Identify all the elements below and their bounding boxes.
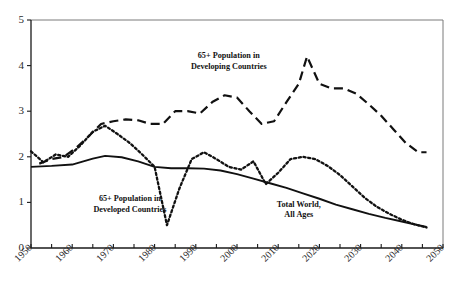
developing-countries-label: 65+ Population inDeveloping Countries: [191, 51, 267, 73]
developed-countries-label-line: 65+ Population in: [93, 194, 166, 205]
y-tick-label-4: 4: [2, 59, 24, 71]
series-line-1: [31, 126, 427, 228]
y-tick-label-1: 1: [2, 195, 24, 207]
total-world-label-line: Total World,: [277, 200, 321, 211]
developing-countries-label-line: 65+ Population in: [191, 51, 267, 62]
total-world-label-line: All Ages: [277, 211, 321, 222]
developed-countries-label-line: Developed Countries: [93, 205, 166, 216]
total-world-label: Total World,All Ages: [277, 200, 321, 222]
y-tick-label-2: 2: [2, 150, 24, 162]
y-tick-label-5: 5: [2, 13, 24, 25]
developed-countries-label: 65+ Population inDeveloped Countries: [93, 194, 166, 216]
developing-countries-label-line: Developing Countries: [191, 62, 267, 73]
y-tick-label-3: 3: [2, 104, 24, 116]
chart-container: 012345 195019601970198019902000201020202…: [0, 0, 456, 293]
data-series-layer: [31, 56, 427, 227]
